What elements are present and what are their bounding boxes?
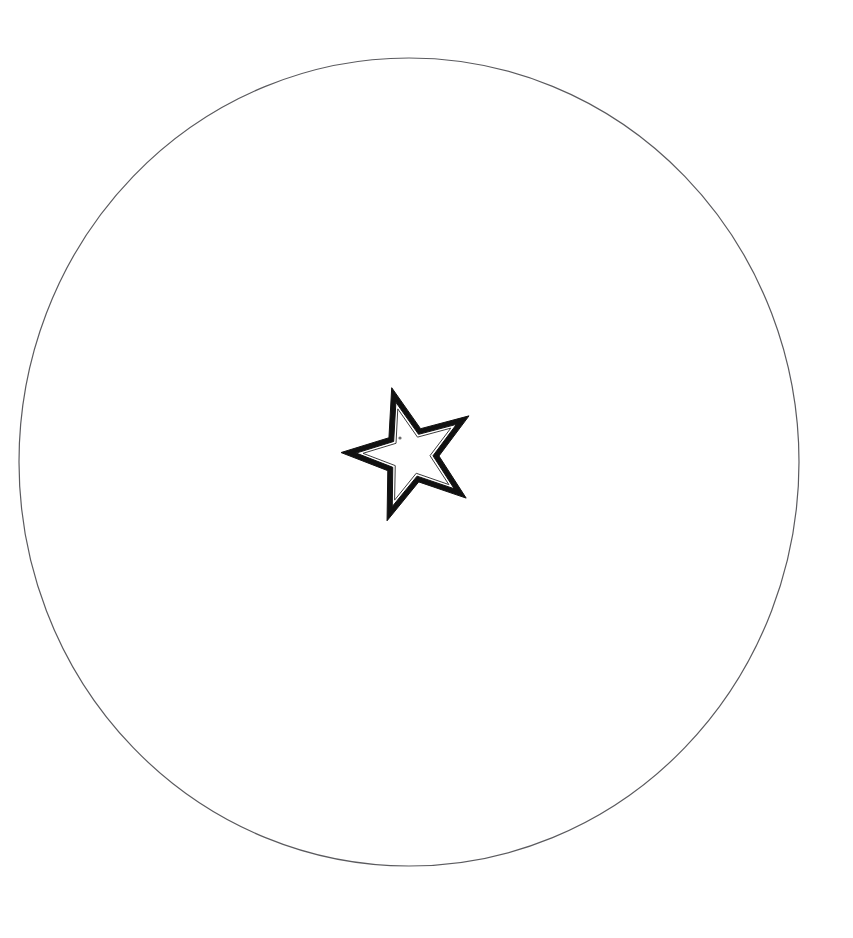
drawing-canvas: A large thin hand-drawn circle on a whit… (0, 0, 853, 938)
line-drawing-svg (0, 0, 853, 938)
center-dot (398, 436, 401, 439)
